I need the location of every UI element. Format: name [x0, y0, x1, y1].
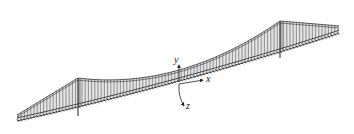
z-axis-label: z [185, 100, 190, 111]
y-axis-label: y [173, 54, 179, 65]
bridge-diagram: y x z [0, 0, 354, 134]
towers [78, 21, 282, 116]
z-axis-arrow [179, 84, 184, 106]
bridge-wireframe: y x z [0, 0, 354, 134]
x-axis-label: x [205, 73, 211, 84]
x-axis-arrow [179, 80, 203, 84]
